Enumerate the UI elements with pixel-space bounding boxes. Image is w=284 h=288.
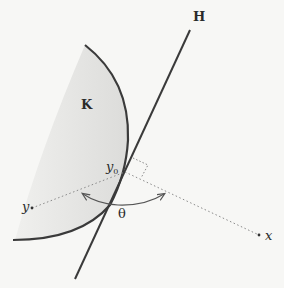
hyperplane-label: H <box>193 9 205 24</box>
angle-arc <box>118 194 164 205</box>
angle-label: θ <box>118 206 126 221</box>
dotted-line-x <box>125 172 259 235</box>
figure-canvas: H K y0 y x θ <box>0 0 284 288</box>
diagram: H K y0 y x θ <box>0 0 284 288</box>
point-y-label: y <box>21 199 30 214</box>
set-label: K <box>81 97 93 112</box>
point-y-dot <box>31 207 34 210</box>
point-x-dot <box>258 234 261 237</box>
point-x-label: x <box>265 228 273 243</box>
right-angle-marker <box>133 158 148 178</box>
